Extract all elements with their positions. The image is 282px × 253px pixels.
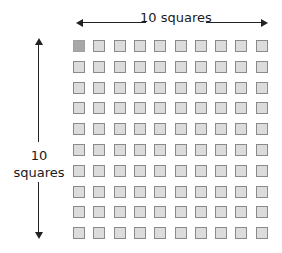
square [73,82,85,94]
square [215,102,227,114]
square [215,144,227,156]
vertical-label-unit: squares [2,165,76,181]
square [154,206,166,218]
square [154,186,166,198]
square [73,61,85,73]
square [195,206,207,218]
square [93,102,105,114]
square [256,165,268,177]
square [215,40,227,52]
square [175,40,187,52]
square [93,206,105,218]
square [215,82,227,94]
square [235,206,247,218]
square [235,144,247,156]
square [195,82,207,94]
square [134,206,146,218]
square [114,227,126,239]
square [154,144,166,156]
square [154,123,166,135]
square [175,206,187,218]
square [73,102,85,114]
square [235,165,247,177]
square [134,227,146,239]
arrow-left-head-icon [76,19,83,27]
square [256,61,268,73]
square [134,61,146,73]
square [256,227,268,239]
square [256,206,268,218]
square [256,123,268,135]
square [93,227,105,239]
square [256,40,268,52]
square [73,144,85,156]
square [195,61,207,73]
square [175,82,187,94]
square [93,186,105,198]
square [215,165,227,177]
square [256,102,268,114]
square [114,206,126,218]
square [154,227,166,239]
square [134,165,146,177]
square [175,165,187,177]
square [73,123,85,135]
square [134,144,146,156]
square [195,227,207,239]
square [215,227,227,239]
square [154,165,166,177]
square [93,165,105,177]
square [93,144,105,156]
square [134,102,146,114]
square [114,40,126,52]
square [93,40,105,52]
arrow-right-head-icon [261,19,268,27]
square [235,227,247,239]
square [256,144,268,156]
vertical-label-number: 10 [20,148,58,164]
square [73,186,85,198]
square [256,186,268,198]
arrow-line [206,22,262,23]
square [195,186,207,198]
square [114,61,126,73]
square [93,82,105,94]
square [235,102,247,114]
square [134,82,146,94]
square [73,206,85,218]
square [215,61,227,73]
square [154,102,166,114]
square [154,61,166,73]
square [114,102,126,114]
square [235,82,247,94]
square [93,123,105,135]
square [175,186,187,198]
square [195,165,207,177]
square [195,102,207,114]
square [215,186,227,198]
highlighted-square [73,40,85,52]
square [134,123,146,135]
square [114,123,126,135]
square [235,40,247,52]
square [175,61,187,73]
square [256,82,268,94]
arrow-down-head-icon [35,232,43,239]
vertical-arrow-line [38,182,39,232]
square [215,206,227,218]
square [73,227,85,239]
square [195,144,207,156]
square [93,61,105,73]
square [134,186,146,198]
square [154,82,166,94]
vertical-arrow-line [38,44,39,142]
square [195,123,207,135]
square [175,102,187,114]
square [215,123,227,135]
square [175,123,187,135]
square [235,123,247,135]
square [114,186,126,198]
square [175,144,187,156]
arrow-up-head-icon [35,38,43,45]
square [235,61,247,73]
